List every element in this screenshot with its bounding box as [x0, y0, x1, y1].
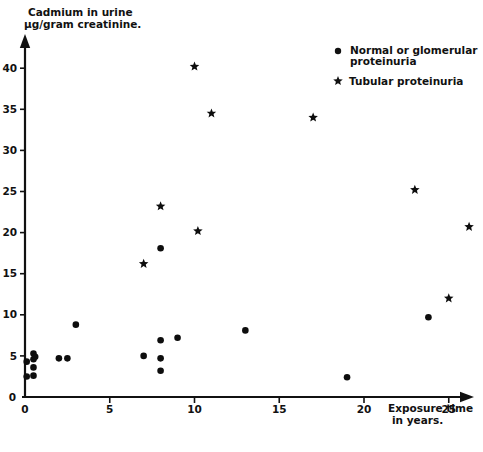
x-tick-label-20: 20: [357, 403, 372, 415]
x-tick-label-5: 5: [106, 403, 113, 415]
data-point-dot-0-15: [174, 335, 181, 342]
data-point-star-1-6: [410, 185, 420, 194]
x-tick-label-15: 15: [272, 403, 287, 415]
data-point-star-1-7: [444, 293, 454, 302]
data-point-star-1-8: [464, 222, 474, 231]
data-point-dot-0-13: [157, 355, 164, 362]
y-axis-title-line1: Cadmium in urine: [28, 6, 133, 18]
data-point-star-1-4: [207, 108, 217, 117]
data-point-dot-0-18: [425, 314, 432, 321]
y-tick-label-5: 5: [10, 350, 17, 362]
y-axis-arrowhead: [20, 34, 30, 48]
x-tick-label-0: 0: [21, 403, 28, 415]
legend-label-1-line1: Tubular proteinuria: [349, 75, 463, 87]
data-point-star-1-2: [190, 62, 200, 71]
legend-dot-marker-icon: [335, 48, 341, 54]
data-point-star-1-1: [156, 201, 166, 210]
data-point-dot-0-17: [344, 374, 351, 381]
data-point-dot-0-12: [157, 337, 164, 344]
x-axis-title-line2: in years.: [392, 414, 443, 426]
y-tick-label-40: 40: [2, 62, 17, 74]
data-point-dot-0-8: [64, 355, 71, 362]
data-point-dot-0-7: [56, 355, 63, 362]
data-point-star-1-3: [193, 226, 203, 235]
y-tick-label-25: 25: [2, 185, 17, 197]
data-point-star-1-0: [139, 259, 149, 268]
data-point-dot-0-4: [30, 364, 37, 371]
y-axis-title-line2: µg/gram creatinine.: [24, 18, 141, 30]
data-point-dot-0-1: [23, 373, 30, 380]
data-point-dot-0-6: [32, 353, 39, 360]
data-point-dot-0-10: [140, 353, 147, 360]
data-point-dot-0-11: [157, 245, 164, 252]
legend-label-0-line2: proteinuria: [350, 55, 416, 67]
data-point-dot-0-0: [23, 358, 30, 365]
y-tick-label-20: 20: [2, 226, 17, 238]
x-tick-label-10: 10: [187, 403, 202, 415]
data-point-star-1-5: [308, 113, 318, 122]
y-tick-label-30: 30: [2, 144, 17, 156]
y-tick-label-0: 0: [9, 391, 16, 403]
x-axis-arrowhead: [460, 392, 474, 402]
data-point-dot-0-14: [157, 367, 164, 374]
y-tick-label-15: 15: [2, 267, 17, 279]
data-point-dot-0-9: [73, 321, 80, 328]
x-axis-title-line1: Exposure time: [388, 402, 473, 414]
plot-canvas: 05101520253035400510152025Cadmium in uri…: [0, 0, 483, 452]
data-point-dot-0-16: [242, 327, 249, 334]
legend-star-marker-icon: [333, 76, 343, 85]
y-tick-label-35: 35: [2, 103, 17, 115]
scatter-plot-figure: 05101520253035400510152025Cadmium in uri…: [0, 0, 483, 452]
data-point-dot-0-5: [30, 372, 37, 379]
y-tick-label-10: 10: [2, 308, 17, 320]
